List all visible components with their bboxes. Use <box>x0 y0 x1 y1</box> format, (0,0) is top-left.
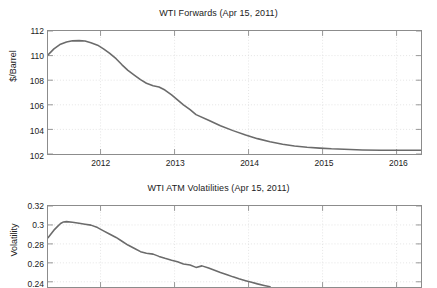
plot-area-forwards: 102104106108110112 20122013201420152016 <box>47 30 422 155</box>
x-tick-label: 2016 <box>389 159 408 168</box>
x-tick-label: 2015 <box>315 159 334 168</box>
y-tick-label: 110 <box>30 52 44 61</box>
y-axis-label-forwards: $/Barrel <box>8 36 18 96</box>
figure-canvas: WTI Forwards (Apr 15, 2011) $/Barrel 102… <box>0 0 437 288</box>
y-tick-label: 108 <box>30 77 44 86</box>
chart-title-forwards: WTI Forwards (Apr 15, 2011) <box>0 8 437 19</box>
plot-svg-forwards <box>48 31 421 154</box>
gridlines-volatilities <box>48 206 421 287</box>
x-tick-label: 2013 <box>166 159 185 168</box>
y-axis-label-volatilities: Volatility <box>9 210 19 270</box>
y-tick-label: 0.24 <box>27 279 44 288</box>
plot-svg-volatilities <box>48 206 421 287</box>
tickmarks-volatilities <box>48 206 421 287</box>
chart-panel-wti-forwards: WTI Forwards (Apr 15, 2011) $/Barrel 102… <box>0 0 437 178</box>
y-tick-label: 0.3 <box>32 221 44 230</box>
y-tick-label: 112 <box>30 27 44 36</box>
chart-title-volatilities: WTI ATM Volatilities (Apr 15, 2011) <box>0 183 437 194</box>
plot-area-volatilities: 0.240.260.280.30.32 <box>47 205 422 288</box>
data-line-forwards <box>48 41 421 151</box>
chart-panel-wti-atm-volatilities: WTI ATM Volatilities (Apr 15, 2011) Vola… <box>0 178 437 288</box>
y-tick-label: 102 <box>30 152 44 161</box>
x-tick-label: 2014 <box>240 159 259 168</box>
y-tick-label: 0.26 <box>27 260 44 269</box>
y-tick-label: 106 <box>30 102 44 111</box>
x-tick-label: 2012 <box>91 159 110 168</box>
y-tick-label: 104 <box>30 127 44 136</box>
y-tick-label: 0.28 <box>27 241 44 250</box>
y-tick-label: 0.32 <box>27 202 44 211</box>
data-line-volatilities <box>48 222 270 287</box>
